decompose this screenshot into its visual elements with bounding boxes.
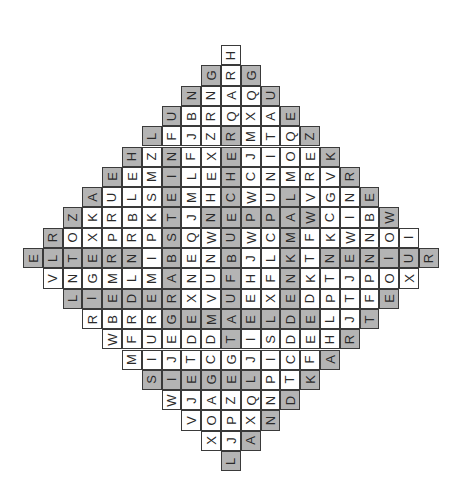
grid-cell[interactable]: I [162,167,182,187]
grid-cell[interactable]: C [280,350,300,370]
grid-cell[interactable]: B [181,106,201,126]
grid-cell[interactable]: U [221,228,241,248]
grid-cell[interactable]: F [122,329,142,349]
grid-cell[interactable]: A [261,106,281,126]
grid-cell[interactable]: F [162,126,182,146]
grid-cell[interactable]: L [142,126,162,146]
grid-cell[interactable]: J [241,350,261,370]
grid-cell[interactable]: I [142,248,162,268]
grid-cell[interactable]: J [340,309,360,329]
grid-cell[interactable]: I [261,147,281,167]
grid-cell[interactable]: K [82,207,102,227]
grid-cell[interactable]: E [181,248,201,268]
grid-cell[interactable]: A [221,309,241,329]
grid-cell[interactable]: N [201,207,221,227]
grid-cell[interactable]: J [241,147,261,167]
grid-cell[interactable]: D [280,329,300,349]
grid-cell[interactable]: F [261,268,281,288]
grid-cell[interactable]: M [280,167,300,187]
grid-cell[interactable]: E [181,309,201,329]
grid-cell[interactable]: T [340,289,360,309]
grid-cell[interactable]: J [162,350,182,370]
grid-cell[interactable]: R [102,207,122,227]
grid-cell[interactable]: R [221,126,241,146]
grid-cell[interactable]: R [419,248,439,268]
grid-cell[interactable]: L [43,248,63,268]
grid-cell[interactable]: E [379,289,399,309]
grid-cell[interactable]: G [162,309,182,329]
grid-cell[interactable]: S [142,187,162,207]
grid-cell[interactable]: I [399,228,419,248]
grid-cell[interactable]: E [221,207,241,227]
grid-cell[interactable]: X [181,289,201,309]
grid-cell[interactable]: U [142,329,162,349]
grid-cell[interactable]: M [201,309,221,329]
grid-cell[interactable]: F [181,147,201,167]
grid-cell[interactable]: B [221,248,241,268]
grid-cell[interactable]: X [241,410,261,430]
grid-cell[interactable]: K [280,248,300,268]
grid-cell[interactable]: X [82,228,102,248]
grid-cell[interactable]: X [201,147,221,167]
grid-cell[interactable]: V [201,289,221,309]
grid-cell[interactable]: Z [201,126,221,146]
grid-cell[interactable]: N [261,167,281,187]
grid-cell[interactable]: J [181,126,201,146]
grid-cell[interactable]: Z [300,126,320,146]
grid-cell[interactable]: J [340,268,360,288]
grid-cell[interactable]: E [300,329,320,349]
grid-cell[interactable]: E [221,370,241,390]
grid-cell[interactable]: R [122,309,142,329]
grid-cell[interactable]: K [142,207,162,227]
grid-cell[interactable]: P [142,228,162,248]
grid-cell[interactable]: D [201,329,221,349]
grid-cell[interactable]: T [280,370,300,390]
grid-cell[interactable]: M [122,350,142,370]
grid-cell[interactable]: P [320,289,340,309]
grid-cell[interactable]: B [360,207,380,227]
grid-cell[interactable]: H [221,45,241,65]
grid-cell[interactable]: W [241,187,261,207]
grid-cell[interactable]: L [241,370,261,390]
grid-cell[interactable]: I [82,289,102,309]
grid-cell[interactable]: R [162,289,182,309]
grid-cell[interactable]: G [201,370,221,390]
grid-cell[interactable]: W [379,207,399,227]
grid-cell[interactable]: E [340,248,360,268]
grid-cell[interactable]: U [399,248,419,268]
grid-cell[interactable]: U [162,106,182,126]
grid-cell[interactable]: T [261,126,281,146]
grid-cell[interactable]: L [122,187,142,207]
grid-cell[interactable]: W [201,228,221,248]
grid-cell[interactable]: P [261,207,281,227]
grid-cell[interactable]: G [320,187,340,207]
grid-cell[interactable]: C [221,187,241,207]
grid-cell[interactable]: F [300,228,320,248]
grid-cell[interactable]: U [201,268,221,288]
grid-cell[interactable]: P [261,370,281,390]
grid-cell[interactable]: O [280,147,300,167]
grid-cell[interactable]: T [360,309,380,329]
grid-cell[interactable]: F [221,268,241,288]
grid-cell[interactable]: M [241,126,261,146]
grid-cell[interactable]: G [201,65,221,85]
grid-cell[interactable]: O [379,268,399,288]
grid-cell[interactable]: I [379,248,399,268]
grid-cell[interactable]: X [261,289,281,309]
grid-cell[interactable]: E [181,370,201,390]
grid-cell[interactable]: W [162,390,182,410]
grid-cell[interactable]: N [360,248,380,268]
grid-cell[interactable]: G [241,65,261,85]
grid-cell[interactable]: W [241,228,261,248]
grid-cell[interactable]: U [102,187,122,207]
grid-cell[interactable]: L [122,268,142,288]
grid-cell[interactable]: U [221,289,241,309]
grid-cell[interactable]: U [261,187,281,207]
grid-cell[interactable]: B [102,309,122,329]
grid-cell[interactable]: G [82,268,102,288]
grid-cell[interactable]: A [241,431,261,451]
grid-cell[interactable]: S [142,370,162,390]
grid-cell[interactable]: C [320,207,340,227]
grid-cell[interactable]: D [122,289,142,309]
grid-cell[interactable]: R [300,167,320,187]
